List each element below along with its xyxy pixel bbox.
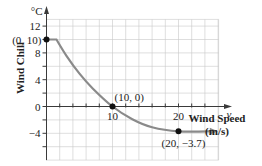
annotation-label: (20, −3.7) — [162, 137, 206, 150]
y-units-label: °C — [31, 5, 43, 17]
data-point — [44, 37, 50, 43]
labels: 12840−41020°C(0, 10)(10, 0)(20, −3.7)vWi… — [12, 5, 245, 150]
y-axis-arrow — [44, 6, 49, 14]
x-tick-label: 10 — [107, 110, 119, 122]
ticks — [43, 26, 205, 147]
y-tick-label: 12 — [30, 20, 41, 32]
y-tick-label: 4 — [35, 74, 41, 86]
y-tick-label: 8 — [35, 47, 41, 59]
wind-chill-chart: 12840−41020°C(0, 10)(10, 0)(20, −3.7)vWi… — [0, 0, 262, 166]
annotation-label: (10, 0) — [115, 91, 145, 104]
x-axis-units-label: (m/s) — [205, 125, 229, 138]
y-tick-label: 0 — [35, 101, 41, 113]
y-tick-label: −4 — [29, 127, 41, 139]
data-point — [176, 128, 182, 134]
y-axis-label: Wind Chill — [14, 42, 26, 94]
x-axis-label: Wind Speed — [189, 112, 246, 124]
x-tick-label: 20 — [173, 110, 185, 122]
